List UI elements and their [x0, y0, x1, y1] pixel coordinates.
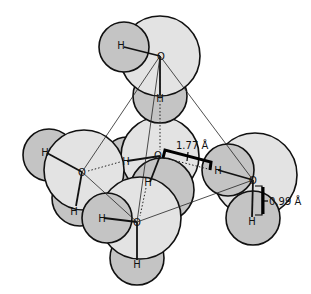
oxygen-label: O	[157, 51, 165, 62]
hydrogen-label: H	[133, 259, 141, 270]
hydrogen-label: H	[70, 206, 78, 217]
water-tetrahedron-diagram: H O H H O H O H H O H H O	[0, 0, 311, 294]
hbond-length-label: 1.77 Å	[176, 139, 208, 151]
molecule-right: O H	[202, 133, 297, 245]
covalent-length-label: 0.99 Å	[269, 195, 301, 207]
hydrogen-label: H	[117, 40, 125, 51]
hydrogen-label: H	[41, 147, 49, 158]
hydrogen-label: H	[214, 165, 222, 176]
molecule-top: H O H	[99, 16, 200, 123]
hydrogen-label: H	[122, 156, 130, 167]
oxygen-label: O	[154, 150, 162, 161]
covalent-bond	[252, 180, 253, 217]
diagram-canvas: H O H H O H O H H O H H O	[0, 0, 311, 294]
hydrogen-sphere	[202, 144, 254, 196]
hydrogen-label: H	[248, 216, 256, 227]
hydrogen-label: H	[98, 213, 106, 224]
hydrogen-label: H	[144, 177, 152, 188]
